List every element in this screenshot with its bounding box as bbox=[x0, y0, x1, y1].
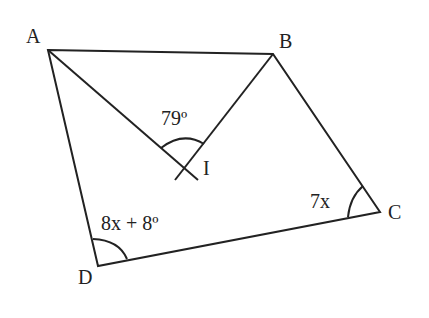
point-label-i: I bbox=[203, 157, 210, 179]
angle-label-c: 7x bbox=[310, 190, 330, 212]
bisector-from-b bbox=[175, 54, 273, 180]
vertex-label-a: A bbox=[26, 25, 41, 47]
angle-arc-c bbox=[348, 186, 363, 217]
quadrilateral-abcd bbox=[48, 50, 380, 266]
quadrilateral-diagram: A B C D I 79º 7x 8x + 8º bbox=[0, 0, 429, 318]
angle-label-aib: 79º bbox=[161, 107, 187, 129]
vertex-label-b: B bbox=[279, 30, 292, 52]
angle-label-d: 8x + 8º bbox=[101, 212, 158, 234]
vertex-label-d: D bbox=[78, 266, 92, 288]
vertex-label-c: C bbox=[388, 201, 401, 223]
angle-arc-i bbox=[161, 138, 204, 148]
angle-arc-d bbox=[93, 239, 127, 259]
